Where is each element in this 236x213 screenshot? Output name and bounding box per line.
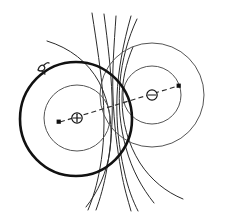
dipole-axis-end-dot: [177, 84, 181, 88]
negative-charge[interactable]: [147, 90, 157, 100]
electric-dipole-diagram: Electric dipole field and equipotential …: [0, 0, 236, 213]
diagram-background: [0, 0, 236, 213]
field-diagram-canvas: [0, 0, 236, 213]
dipole-axis-start-dot: [57, 120, 61, 124]
positive-charge[interactable]: [72, 113, 82, 123]
